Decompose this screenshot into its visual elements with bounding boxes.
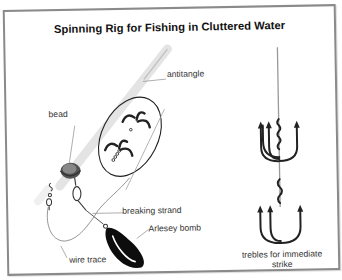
swivel bbox=[73, 178, 87, 211]
treble-hooks-right bbox=[254, 47, 303, 244]
label-bead: bead bbox=[48, 109, 67, 119]
label-trebles: trebles for immediate strike bbox=[237, 248, 327, 270]
label-arlesey-bomb: Arlesey bomb bbox=[148, 222, 201, 233]
rig-illustration bbox=[5, 6, 342, 278]
bomb-link bbox=[103, 224, 107, 228]
label-trebles-line2: strike bbox=[237, 258, 327, 270]
label-antitangle: antitangle bbox=[167, 68, 204, 79]
label-breaking-strand: breaking strand bbox=[122, 205, 181, 216]
arlesey-bomb-weight bbox=[105, 227, 144, 268]
label-wire-trace: wire trace bbox=[69, 254, 106, 265]
breaking-strand-line bbox=[86, 210, 103, 224]
diagram-frame: Spinning Rig for Fishing in Cluttered Wa… bbox=[3, 4, 341, 276]
